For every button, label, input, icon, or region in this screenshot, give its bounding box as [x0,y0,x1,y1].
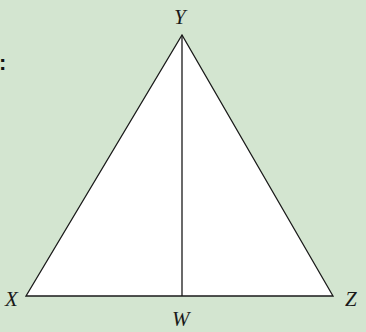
vertex-label-z: Z [345,287,357,311]
vertex-label-x: X [4,287,19,311]
triangle-xyz [26,35,333,296]
triangle-diagram: : Y X Z W [0,0,366,332]
point-label-w: W [172,307,192,331]
vertex-label-y: Y [174,5,188,29]
prefix-colon: : [0,50,6,75]
